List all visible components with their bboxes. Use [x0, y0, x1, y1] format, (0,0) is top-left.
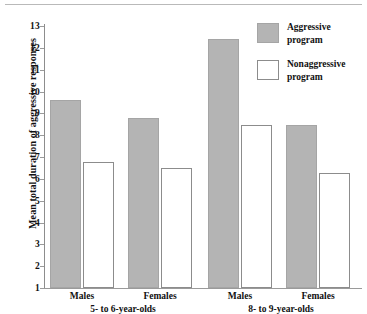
- legend-item-nonaggressive: Nonaggressiveprogram: [257, 59, 367, 83]
- bar: [161, 168, 192, 288]
- y-axis-title: Mean total duration of aggressive respon…: [27, 9, 38, 259]
- legend-swatch-aggressive-icon: [257, 23, 279, 43]
- x-axis-group-label: 8- to 9-year-olds: [221, 304, 341, 314]
- bar: [241, 125, 272, 288]
- bar: [208, 39, 239, 288]
- bar: [83, 162, 114, 288]
- x-axis-tick-label: Females: [120, 291, 200, 301]
- bar: [286, 125, 317, 288]
- legend-swatch-nonaggressive-icon: [257, 60, 279, 80]
- x-axis-group-label: 5- to 6-year-olds: [63, 304, 183, 314]
- bar: [128, 118, 159, 288]
- bar: [50, 100, 81, 288]
- x-axis-tick-label: Males: [42, 291, 122, 301]
- bar: [319, 173, 350, 288]
- x-axis-tick-label: Males: [200, 291, 280, 301]
- x-axis-line: [44, 288, 362, 289]
- legend-label-aggressive: Aggressiveprogram: [287, 21, 367, 46]
- x-axis-tick-label: Females: [278, 291, 358, 301]
- top-divider-rule: [5, 4, 362, 5]
- chart-legend: Aggressiveprogram Nonaggressiveprogram: [257, 22, 367, 96]
- legend-label-nonaggressive: Nonaggressiveprogram: [287, 58, 367, 83]
- legend-item-aggressive: Aggressiveprogram: [257, 22, 367, 46]
